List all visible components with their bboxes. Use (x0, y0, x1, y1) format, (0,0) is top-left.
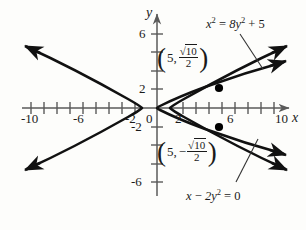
x-tick-label-10: 10 (275, 112, 288, 125)
parabola-equation-label: x − 2y2 = 0 (186, 188, 241, 203)
point-label-lower: ( 5, − √10 2 ) (157, 140, 217, 163)
x-tick-label-2: 2 (175, 112, 182, 125)
hyperbola-eq-lhs-exponent: 2 (212, 15, 216, 25)
point-upper-fraction: √10 2 (179, 46, 199, 69)
point-lower-inner: 5, − √10 2 (166, 140, 208, 163)
point-label-upper: ( 5, √10 2 ) (157, 46, 208, 69)
point-lower-fraction: √10 2 (187, 140, 207, 163)
y-tick-label-2: 2 (139, 82, 146, 95)
parabola-lower-arrow (270, 150, 286, 155)
parabola-eq-term-exponent: 2 (217, 187, 221, 197)
point-upper-radicand: 10 (185, 44, 197, 57)
parabola-eq-equals: = 0 (224, 189, 240, 203)
hyperbola-eq-rhs-coef: 8y (229, 17, 241, 31)
parabola-upper-arrow (270, 61, 286, 66)
x-axis (22, 102, 289, 114)
parabola-eq-lhs: x (186, 189, 192, 203)
y-tick-label-6: 6 (139, 27, 146, 40)
point-upper-inner: 5, √10 2 (166, 46, 199, 69)
intersection-point-upper (215, 84, 223, 92)
hyperbola-eq-rhs-rest: + 5 (248, 17, 264, 31)
x-tick-label-neg6: -6 (73, 112, 84, 125)
hyperbola-left-lower-arrow (25, 163, 40, 170)
y-tick-label-neg2: -2 (131, 120, 142, 133)
point-upper-close-paren: ) (199, 47, 208, 69)
hyperbola-eq-rhs-exponent: 2 (241, 15, 245, 25)
hyperbola-left-upper-arrow (25, 46, 40, 53)
y-axis-label: y (146, 6, 152, 20)
point-upper-denominator: 2 (185, 58, 193, 69)
hyperbola-right-upper-arrow (272, 46, 287, 53)
hyperbola-equation-label: x2 = 8y2 + 5 (206, 16, 265, 31)
x-tick-label-0: 0 (146, 112, 153, 125)
point-lower-minus: − (179, 145, 187, 158)
intersection-point-lower (215, 123, 223, 131)
point-lower-radicand: 10 (194, 138, 206, 151)
point-lower-open-paren: ( (157, 141, 166, 163)
point-lower-close-paren: ) (208, 141, 217, 163)
hyperbola-eq-equals: = (219, 17, 226, 31)
point-lower-numerator: √10 (187, 140, 207, 151)
x-axis-label: x (292, 111, 298, 125)
point-upper-open-paren: ( (157, 47, 166, 69)
hyperbola-right-lower-arrow (272, 163, 287, 170)
parabola-eq-minus: − (195, 189, 202, 203)
graph-figure: -10 -6 -2 0 2 6 10 6 2 -2 -6 y x x2 = 8y… (0, 0, 306, 230)
y-tick-label-neg6: -6 (131, 175, 142, 188)
x-tick-label-6: 6 (227, 112, 234, 125)
parabola-eq-term: 2y (205, 189, 217, 203)
coordinate-plot (0, 0, 306, 230)
point-lower-denominator: 2 (193, 152, 201, 163)
x-tick-label-neg10: -10 (21, 112, 38, 125)
point-upper-numerator: √10 (179, 46, 199, 57)
